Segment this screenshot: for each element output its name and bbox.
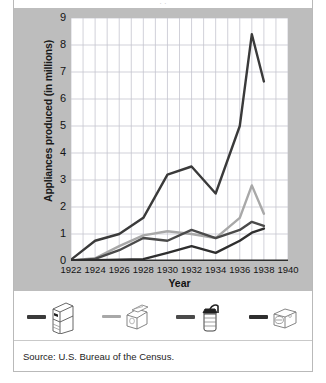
- x-tick-label: 1940: [273, 264, 303, 275]
- x-axis-label: Year: [71, 277, 288, 289]
- source-note: Source: U.S. Bureau of the Census.: [14, 341, 312, 371]
- mixer-icon: [198, 301, 222, 333]
- washing-machine-icon: [124, 303, 150, 331]
- y-tick-label: 2: [50, 200, 66, 212]
- y-tick-label: 5: [50, 119, 66, 131]
- y-tick-label: 6: [50, 92, 66, 104]
- legend-item-mixers[interactable]: [163, 301, 236, 333]
- legend-item-vacuum-cleaners[interactable]: [236, 304, 313, 330]
- legend-swatch-washing-machines: [102, 315, 121, 318]
- figure-container: · · Appliances produced (in millions) 01…: [13, 0, 313, 372]
- y-tick-label: 3: [50, 173, 66, 185]
- legend-item-refrigerators[interactable]: [14, 300, 89, 334]
- y-tick-label: 7: [50, 65, 66, 77]
- gridlines: [71, 18, 288, 261]
- legend-swatch-vacuum-cleaners: [249, 315, 268, 319]
- y-tick-label: 9: [50, 11, 66, 23]
- refrigerator-icon: [49, 300, 75, 334]
- legend: [14, 293, 312, 341]
- legend-swatch-mixers: [176, 315, 195, 319]
- y-tick-label: 8: [50, 38, 66, 50]
- y-tick-label: 1: [50, 227, 66, 239]
- legend-item-washing-machines[interactable]: [89, 303, 164, 331]
- y-tick-label: 4: [50, 146, 66, 158]
- chart-panel: Appliances produced (in millions) 012345…: [14, 8, 312, 291]
- plot-area: [71, 18, 288, 261]
- legend-swatch-refrigerators: [27, 315, 46, 319]
- chart-lines-svg: [71, 18, 288, 261]
- vacuum-cleaner-icon: [271, 304, 299, 330]
- truncated-text-above: · ·: [14, 0, 312, 7]
